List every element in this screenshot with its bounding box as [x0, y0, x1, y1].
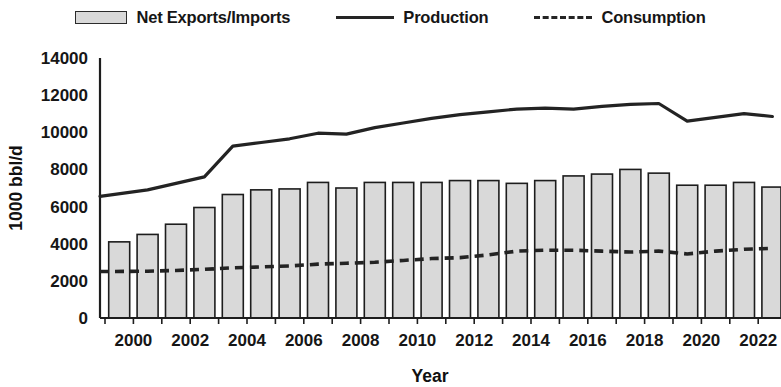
bar	[762, 187, 781, 318]
bar	[222, 195, 243, 319]
x-axis-title: Year	[412, 366, 449, 386]
bar	[592, 174, 613, 318]
bar	[421, 182, 442, 318]
bar	[364, 182, 385, 318]
bar	[478, 181, 499, 318]
bar	[137, 234, 158, 318]
x-tick-label: 2010	[398, 331, 436, 350]
plot-area: 02000400060008000100001200014000 2000200…	[0, 0, 781, 387]
y-tick-label: 8000	[50, 160, 88, 179]
x-tick-label: 2022	[739, 331, 777, 350]
bar	[194, 208, 215, 319]
bar	[563, 176, 584, 318]
bar	[308, 182, 329, 318]
bar	[279, 189, 300, 318]
bar-series-net-exports-imports	[109, 169, 781, 318]
y-tick-label: 12000	[41, 86, 88, 105]
bar	[336, 188, 357, 318]
chart-container: Net Exports/Imports Production Consumpti…	[0, 0, 781, 387]
bar	[620, 169, 641, 318]
bar	[109, 242, 130, 318]
x-tick-label: 2006	[285, 331, 323, 350]
x-tick-label: 2018	[626, 331, 664, 350]
x-tick-label: 2008	[342, 331, 380, 350]
x-tick-label: 2002	[171, 331, 209, 350]
x-tick-label: 2000	[114, 331, 152, 350]
x-tick-label: 2016	[569, 331, 607, 350]
x-tick-label: 2012	[455, 331, 493, 350]
y-tick-label: 2000	[50, 272, 88, 291]
bar	[393, 182, 414, 318]
x-tick-label: 2004	[228, 331, 266, 350]
bar	[450, 181, 471, 318]
y-tick-label: 6000	[50, 198, 88, 217]
x-tick-label: 2020	[682, 331, 720, 350]
bar	[251, 190, 272, 318]
y-tick-label: 0	[79, 309, 88, 328]
y-axis-title: 1000 bbl/d	[6, 145, 26, 231]
y-tick-label: 10000	[41, 123, 88, 142]
y-axis-tick-labels: 02000400060008000100001200014000	[41, 49, 88, 328]
x-axis-tick-labels: 2000200220042006200820102012201420162018…	[114, 331, 777, 350]
y-tick-label: 4000	[50, 235, 88, 254]
bar	[677, 185, 698, 318]
y-tick-label: 14000	[41, 49, 88, 68]
bar	[648, 173, 669, 318]
x-tick-label: 2014	[512, 331, 550, 350]
